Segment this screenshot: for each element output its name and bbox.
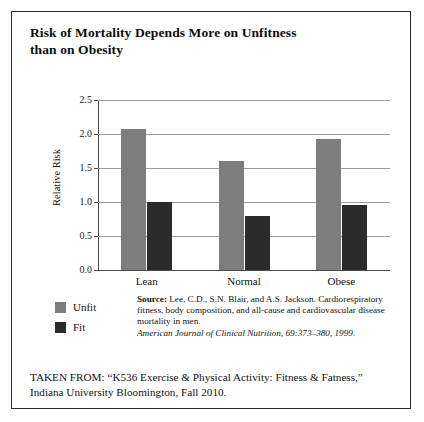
y-tick-mark — [94, 100, 98, 101]
y-tick-label: 2.5 — [58, 94, 92, 105]
y-tick-label: 1.0 — [58, 196, 92, 207]
source-label: Source: — [137, 294, 167, 304]
y-tick-label: 0.0 — [58, 264, 92, 275]
y-tick-mark — [94, 134, 98, 135]
chart-legend: UnfitFit — [55, 298, 135, 338]
x-tick-label-obese: Obese — [301, 275, 381, 287]
title-line-1: Risk of Mortality Depends More on Unfitn… — [30, 24, 380, 41]
y-tick-mark — [94, 236, 98, 237]
y-tick-mark — [94, 202, 98, 203]
y-tick-mark — [94, 168, 98, 169]
y-tick-label: 2.0 — [58, 128, 92, 139]
chart-title: Risk of Mortality Depends More on Unfitn… — [30, 24, 380, 58]
taken-from-line-1: TAKEN FROM: “K536 Exercise & Physical Ac… — [30, 370, 396, 385]
bar-lean-fit — [147, 202, 172, 270]
chart-area: Relative Risk 2.52.01.51.00.50.0 LeanNor… — [12, 80, 412, 292]
gridline — [98, 100, 390, 101]
plot-area: LeanNormalObese — [98, 100, 390, 270]
source-citation: Source: Lee, C.D., S.N. Blair, and A.S. … — [137, 294, 389, 339]
source-journal: American Journal of Clinical Nutrition, … — [137, 328, 389, 339]
y-tick-mark — [94, 270, 98, 271]
y-axis-tick-labels: 2.52.01.51.00.50.0 — [52, 100, 92, 270]
legend-swatch-icon — [55, 322, 66, 333]
y-tick-label: 1.5 — [58, 162, 92, 173]
legend-swatch-icon — [55, 302, 66, 313]
bar-lean-unfit — [121, 129, 146, 270]
y-tick-label: 0.5 — [58, 230, 92, 241]
bar-obese-unfit — [316, 139, 341, 270]
x-tick-label-normal: Normal — [204, 275, 284, 287]
legend-label: Unfit — [73, 301, 96, 313]
x-tick-label-lean: Lean — [107, 275, 187, 287]
title-line-2: than on Obesity — [30, 41, 380, 58]
taken-from-line-2: Indiana University Bloomington, Fall 201… — [30, 385, 396, 400]
bar-normal-fit — [245, 216, 270, 270]
bar-obese-fit — [342, 205, 367, 270]
legend-item-unfit: Unfit — [55, 298, 135, 316]
taken-from-note: TAKEN FROM: “K536 Exercise & Physical Ac… — [30, 370, 396, 400]
figure-container: Risk of Mortality Depends More on Unfitn… — [11, 11, 411, 409]
source-text: Lee, C.D., S.N. Blair, and A.S. Jackson.… — [137, 294, 385, 326]
legend-item-fit: Fit — [55, 318, 135, 336]
bar-normal-unfit — [219, 161, 244, 270]
gridline — [98, 270, 390, 271]
legend-label: Fit — [73, 321, 85, 333]
